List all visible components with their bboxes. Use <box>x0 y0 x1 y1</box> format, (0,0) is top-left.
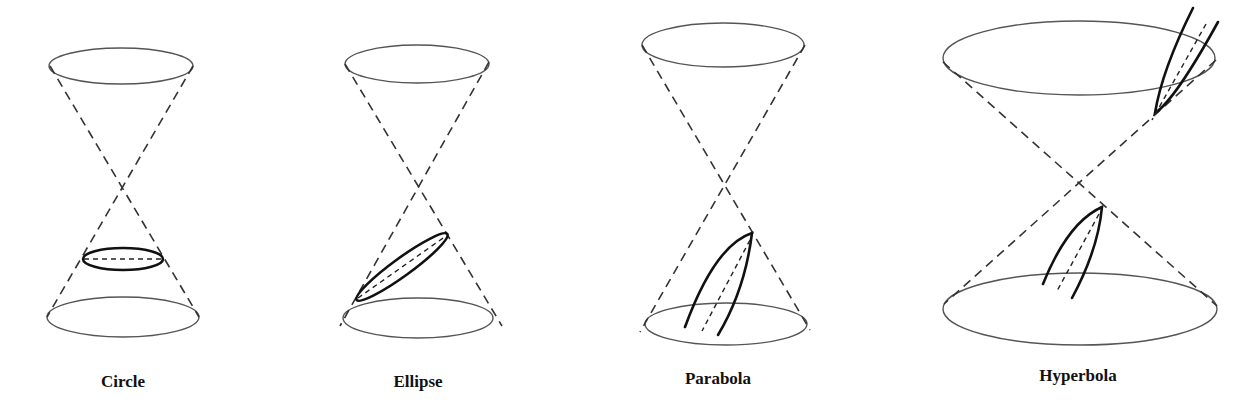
parabola-curve <box>685 233 752 335</box>
parabola-cone-bottom-rim <box>645 303 807 345</box>
hyperbola-cone-generator-right <box>944 60 1216 304</box>
ellipse-cone-bottom-rim <box>343 298 493 338</box>
hyperbola-cone-top-rim <box>943 21 1215 95</box>
hyperbola-label: Hyperbola <box>1039 366 1116 386</box>
hyperbola-cone-generator-left <box>943 62 1217 306</box>
circle-cone-top-rim <box>49 48 193 84</box>
parabola-cone-generator-left <box>642 45 810 330</box>
ellipse-section-major-axis <box>358 236 446 298</box>
hyperbola-lower-branch <box>1043 207 1102 298</box>
ellipse-label: Ellipse <box>393 372 442 392</box>
parabola-cone-generator-right <box>640 45 805 332</box>
hyperbola-cone <box>943 8 1218 345</box>
circle-cone-bottom-rim <box>47 297 199 337</box>
ellipse-section <box>351 227 452 307</box>
parabola-cone-top-rim <box>642 23 804 67</box>
ellipse-cone-top-rim <box>345 45 489 83</box>
ellipse-cone-generator-right <box>340 62 489 326</box>
parabola-label: Parabola <box>685 369 751 389</box>
circle-label: Circle <box>101 372 145 392</box>
circle-cone-generator-left <box>50 66 199 317</box>
ellipse-cone <box>340 45 502 338</box>
circle-cone-generator-right <box>47 66 193 317</box>
parabola-cone <box>640 23 810 345</box>
circle-cone <box>47 48 199 337</box>
parabola-axis <box>702 240 750 331</box>
conic-sections-figure <box>0 0 1258 408</box>
ellipse-cone-generator-left <box>345 64 502 326</box>
